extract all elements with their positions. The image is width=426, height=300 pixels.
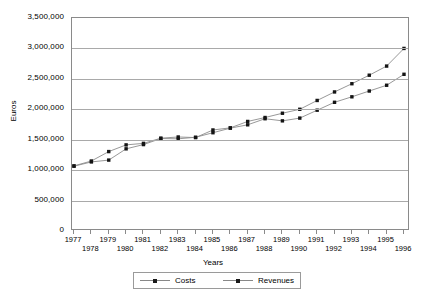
series-line-revenues	[74, 48, 404, 165]
data-point	[333, 90, 336, 93]
x-axis-tick-mark	[334, 230, 335, 234]
y-axis-tick-label: 500,000	[34, 196, 64, 204]
gridline	[72, 109, 408, 110]
x-axis-tick-mark	[403, 230, 404, 234]
data-point	[281, 112, 284, 115]
data-point	[107, 150, 110, 153]
data-point	[124, 147, 127, 150]
x-axis-tick-mark	[351, 230, 352, 234]
plot-area	[71, 17, 409, 230]
x-axis-tick-mark	[108, 230, 109, 234]
x-axis-tick-mark	[281, 230, 282, 234]
y-axis-tick-label: 1,500,000	[28, 135, 65, 143]
x-axis-tick-label: 1979	[99, 236, 116, 244]
series-line-costs	[74, 74, 404, 166]
data-point	[385, 84, 388, 87]
y-axis-tick-label: 3,500,000	[28, 13, 65, 21]
data-point	[211, 128, 214, 131]
x-axis-tick-mark	[229, 230, 230, 234]
data-point	[333, 101, 336, 104]
data-point	[246, 120, 249, 123]
data-point	[229, 126, 232, 129]
x-axis-tick-label: 1985	[204, 236, 221, 244]
x-axis-tick-mark	[386, 230, 387, 234]
gridline	[72, 48, 408, 49]
y-axis-tick-labels: 3,500,0003,000,0002,500,0002,000,0001,50…	[0, 17, 68, 230]
data-point	[350, 95, 353, 98]
legend-entry-revenues: Revenues	[217, 277, 300, 285]
x-axis-tick-label: 1981	[134, 236, 151, 244]
x-axis-tick-mark	[160, 230, 161, 234]
x-axis-tick-label: 1989	[273, 236, 290, 244]
data-point	[90, 159, 93, 162]
gridline	[72, 79, 408, 80]
data-point	[368, 89, 371, 92]
data-point	[72, 164, 75, 167]
x-axis-tick-label: 1995	[377, 236, 394, 244]
data-point	[281, 119, 284, 122]
x-axis-tick-label: 1992	[325, 245, 342, 253]
y-axis-tick-label: 0	[59, 226, 64, 234]
data-point	[142, 142, 145, 145]
x-axis-tick-label: 1984	[186, 245, 203, 253]
x-axis-tick-label: 1988	[256, 245, 273, 253]
x-axis-tick-label: 1982	[151, 245, 168, 253]
data-point	[385, 64, 388, 67]
legend-label: Revenues	[258, 277, 294, 285]
x-axis-tick-mark	[125, 230, 126, 234]
x-axis-tick-mark	[316, 230, 317, 234]
gridline	[72, 170, 408, 171]
line-chart: Euros 3,500,0003,000,0002,500,0002,000,0…	[0, 0, 426, 300]
gridline	[72, 140, 408, 141]
x-axis-tick-mark	[264, 230, 265, 234]
x-axis-tick-mark	[212, 230, 213, 234]
x-axis-tick-mark	[195, 230, 196, 234]
data-point	[177, 135, 180, 138]
line-marker-icon	[140, 277, 170, 285]
y-axis-tick-label: 2,500,000	[28, 74, 65, 82]
x-axis-tick-mark	[90, 230, 91, 234]
data-point	[402, 73, 405, 76]
x-axis-tick-mark	[299, 230, 300, 234]
x-axis-tick-mark	[247, 230, 248, 234]
x-axis-title: Years	[0, 259, 426, 267]
data-point	[263, 116, 266, 119]
x-axis-tick-label: 1991	[308, 236, 325, 244]
data-point	[246, 123, 249, 126]
legend-label: Costs	[175, 277, 195, 285]
chart-legend: Costs Revenues	[133, 272, 301, 289]
data-point	[124, 143, 127, 146]
x-axis-tick-label: 1994	[360, 245, 377, 253]
x-axis-tick-label: 1993	[343, 236, 360, 244]
x-axis-tick-label: 1990	[290, 245, 307, 253]
x-axis-tick-label: 1987	[238, 236, 255, 244]
data-point	[368, 74, 371, 77]
x-axis-tick-label: 1983	[169, 236, 186, 244]
y-axis-tick-label: 2,000,000	[28, 104, 65, 112]
x-axis-tick-mark	[368, 230, 369, 234]
x-axis-tick-label: 1978	[82, 245, 99, 253]
line-marker-icon	[223, 277, 253, 285]
series-layer	[72, 18, 410, 231]
x-axis-tick-label: 1996	[395, 245, 412, 253]
data-point	[298, 116, 301, 119]
x-axis-tick-label: 1977	[65, 236, 82, 244]
data-point	[315, 99, 318, 102]
x-axis-tick-label: 1986	[221, 245, 238, 253]
x-axis-tick-mark	[73, 230, 74, 234]
y-axis-tick-label: 1,000,000	[28, 165, 65, 173]
data-point	[350, 82, 353, 85]
legend-entry-costs: Costs	[134, 277, 217, 285]
gridline	[72, 201, 408, 202]
x-axis-tick-label: 1980	[117, 245, 134, 253]
y-axis-tick-label: 3,000,000	[28, 43, 65, 51]
x-axis-tick-mark	[177, 230, 178, 234]
x-axis-tick-mark	[142, 230, 143, 234]
data-point	[107, 158, 110, 161]
